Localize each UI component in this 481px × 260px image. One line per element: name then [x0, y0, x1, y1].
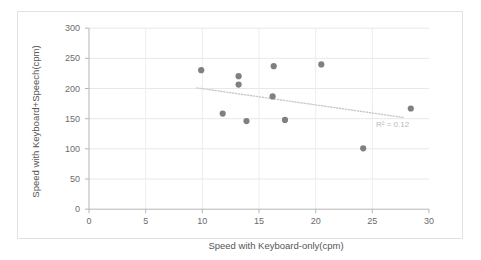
data-point — [236, 73, 242, 79]
x-tick-label: 5 — [136, 216, 156, 226]
y-tick-label: 150 — [52, 114, 80, 124]
y-tick-label: 300 — [52, 23, 80, 33]
y-tick-label: 50 — [52, 174, 80, 184]
x-tick-label: 0 — [79, 216, 99, 226]
x-tick-label: 10 — [192, 216, 212, 226]
y-axis-title: Speed with Keyboard+Speech(cpm) — [30, 42, 41, 202]
x-axis-title: Speed with Keyboard-only(cpm) — [106, 240, 446, 251]
y-tick-marks — [85, 28, 89, 209]
data-point — [220, 111, 226, 117]
y-tick-label: 200 — [52, 84, 80, 94]
y-tick-label: 250 — [52, 53, 80, 63]
x-tick-label: 20 — [306, 216, 326, 226]
x-tick-label: 30 — [419, 216, 439, 226]
data-point — [270, 93, 276, 99]
data-point — [236, 82, 242, 88]
x-tick-label: 15 — [249, 216, 269, 226]
chart-frame: 300 250 200 150 100 50 0 0 5 10 15 20 25… — [17, 11, 463, 239]
data-point — [243, 118, 249, 124]
data-points — [198, 61, 414, 151]
x-tick-marks — [89, 209, 429, 213]
data-point — [282, 117, 288, 123]
data-point — [360, 145, 366, 151]
y-tick-label: 0 — [52, 204, 80, 214]
x-tick-label: 25 — [362, 216, 382, 226]
data-point — [318, 61, 324, 67]
chart-figure: 300 250 200 150 100 50 0 0 5 10 15 20 25… — [0, 0, 481, 260]
data-point — [198, 67, 204, 73]
data-point — [408, 105, 414, 111]
y-tick-label: 100 — [52, 144, 80, 154]
data-point — [271, 63, 277, 69]
r-squared-annotation: R² = 0.12 — [376, 120, 409, 129]
